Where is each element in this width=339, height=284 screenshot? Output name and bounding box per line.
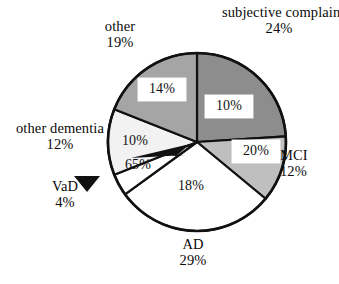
pie-label-mci: MCI 12% (280, 147, 336, 179)
pie-label-other-name: other (84, 18, 156, 34)
pie-label-vad-name: VaD (34, 178, 96, 194)
pie-label-other-pct: 19% (84, 34, 156, 50)
pie-label-ad-name: AD (160, 236, 226, 252)
pie-inner-pct-subjective-complaints: 10% (205, 95, 253, 118)
pie-inner-pct-ad: 18% (178, 178, 204, 194)
pie-chart: subjective complaints 24% other 19% othe… (0, 0, 339, 284)
pie-inner-pct-other-dementia: 10% (122, 133, 148, 149)
pie-label-other-dementia-name: other dementia (0, 120, 122, 136)
pie-label-subjective-complaints: subjective complaints 24% (222, 4, 336, 36)
pie-label-other-dementia: other dementia 12% (0, 120, 122, 152)
pie-label-ad-pct: 29% (160, 252, 226, 268)
pie-label-other-dementia-pct: 12% (0, 136, 122, 152)
pie-inner-pct-vad: 65% (125, 157, 151, 173)
pie-label-subjective-complaints-pct: 24% (222, 20, 336, 36)
pie-label-mci-pct: 12% (280, 163, 336, 179)
pie-label-vad: VaD 4% (34, 178, 96, 210)
pie-label-mci-name: MCI (280, 147, 336, 163)
pie-label-vad-pct: 4% (34, 194, 96, 210)
pie-label-subjective-complaints-name: subjective complaints (222, 4, 336, 20)
pie-inner-pct-other: 14% (138, 78, 186, 101)
pie-inner-pct-mci: 20% (232, 140, 280, 163)
pie-label-other: other 19% (84, 18, 156, 50)
pie-label-ad: AD 29% (160, 236, 226, 268)
